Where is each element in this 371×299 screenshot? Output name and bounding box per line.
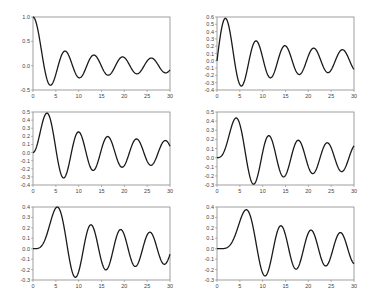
x-tick-label: 20 <box>121 93 127 99</box>
y-tick-label: 0.5 <box>22 109 30 115</box>
x-tick-label: 0 <box>31 188 34 194</box>
y-tick-label: -0.1 <box>205 164 214 170</box>
y-tick-label: -0.3 <box>205 277 214 283</box>
x-tick-label: 5 <box>238 188 241 194</box>
x-tick-label: 20 <box>121 188 127 194</box>
y-tick-label: 0.0 <box>206 58 214 64</box>
x-tick-label: 10 <box>76 188 82 194</box>
plot-frame <box>33 207 170 280</box>
y-tick-label: -0.3 <box>205 182 214 188</box>
y-tick-label: -0.4 <box>205 87 214 93</box>
x-tick-label: 5 <box>238 283 241 289</box>
x-tick-label: 20 <box>305 283 311 289</box>
y-tick-label: 0.0 <box>206 246 214 252</box>
y-tick-label: -0.2 <box>21 267 30 273</box>
y-tick-label: 0.1 <box>206 235 214 241</box>
y-tick-label: -0.1 <box>205 256 214 262</box>
x-tick-label: 25 <box>144 283 150 289</box>
y-tick-label: 0.0 <box>206 155 214 161</box>
x-tick-label: 15 <box>98 188 104 194</box>
x-tick-label: 5 <box>54 283 57 289</box>
chart-panel-j1: 051015202530-0.4-0.3-0.2-0.10.00.10.20.3… <box>205 14 358 99</box>
x-tick-label: 15 <box>282 283 288 289</box>
x-tick-label: 5 <box>54 93 57 99</box>
y-tick-label: 0.3 <box>206 36 214 42</box>
y-tick-label: 0.5 <box>206 109 214 115</box>
x-tick-label: 25 <box>144 93 150 99</box>
y-tick-label: 0.1 <box>22 141 30 147</box>
series-line-j5x <box>217 210 354 276</box>
y-tick-label: -0.1 <box>21 158 30 164</box>
x-tick-label: 30 <box>167 188 173 194</box>
x-tick-label: 20 <box>305 93 311 99</box>
y-tick-label: 0.1 <box>206 146 214 152</box>
x-tick-label: 25 <box>328 188 334 194</box>
x-tick-label: 30 <box>351 283 357 289</box>
x-tick-label: 15 <box>98 93 104 99</box>
y-tick-label: 0.4 <box>22 204 30 210</box>
series-line-j1x <box>217 18 354 86</box>
y-tick-label: 0.2 <box>206 225 214 231</box>
x-tick-label: 0 <box>215 283 218 289</box>
y-tick-label: 0.2 <box>206 136 214 142</box>
y-tick-label: -0.2 <box>205 173 214 179</box>
y-tick-label: -0.2 <box>21 166 30 172</box>
y-tick-label: 1.0 <box>22 14 30 20</box>
x-tick-label: 30 <box>167 93 173 99</box>
y-tick-label: -0.4 <box>21 182 30 188</box>
y-tick-label: 0.2 <box>22 133 30 139</box>
y-tick-label: -0.3 <box>21 277 30 283</box>
y-tick-label: 0.0 <box>22 63 30 69</box>
x-tick-label: 25 <box>328 283 334 289</box>
y-tick-label: -0.3 <box>21 174 30 180</box>
x-tick-label: 5 <box>54 188 57 194</box>
series-line-j2x <box>33 113 170 178</box>
x-tick-label: 10 <box>260 93 266 99</box>
y-tick-label: 0.2 <box>22 225 30 231</box>
y-tick-label: -0.5 <box>21 87 30 93</box>
y-tick-label: -0.2 <box>205 72 214 78</box>
chart-panel-j5: 051015202530-0.3-0.2-0.10.00.10.20.30.4 <box>205 204 358 289</box>
y-tick-label: 0.4 <box>206 118 214 124</box>
x-tick-label: 20 <box>121 283 127 289</box>
y-tick-label: 0.0 <box>22 246 30 252</box>
x-tick-label: 5 <box>238 93 241 99</box>
y-tick-label: 0.3 <box>206 127 214 133</box>
y-tick-label: 0.4 <box>22 117 30 123</box>
chart-panel-j3: 051015202530-0.3-0.2-0.10.00.10.20.30.40… <box>205 109 358 194</box>
y-tick-label: -0.3 <box>205 80 214 86</box>
x-tick-label: 15 <box>282 93 288 99</box>
y-tick-label: 0.2 <box>206 43 214 49</box>
x-tick-label: 20 <box>305 188 311 194</box>
x-tick-label: 15 <box>98 283 104 289</box>
x-tick-label: 10 <box>260 283 266 289</box>
y-tick-label: 0.5 <box>206 21 214 27</box>
x-tick-label: 30 <box>351 93 357 99</box>
x-tick-label: 0 <box>215 93 218 99</box>
y-tick-label: 0.4 <box>206 204 214 210</box>
series-line-j0x <box>33 17 170 85</box>
x-tick-label: 0 <box>215 188 218 194</box>
x-tick-label: 0 <box>31 93 34 99</box>
x-tick-label: 30 <box>351 188 357 194</box>
y-tick-label: -0.1 <box>21 256 30 262</box>
x-tick-label: 10 <box>76 283 82 289</box>
y-tick-label: 0.1 <box>206 51 214 57</box>
chart-panel-j4: 051015202530-0.3-0.2-0.10.00.10.20.30.4 <box>21 204 174 289</box>
x-tick-label: 30 <box>167 283 173 289</box>
x-tick-label: 25 <box>144 188 150 194</box>
series-line-j4x <box>33 207 170 277</box>
y-tick-label: 0.5 <box>22 38 30 44</box>
x-tick-label: 15 <box>282 188 288 194</box>
y-tick-label: 0.4 <box>206 29 214 35</box>
y-tick-label: 0.3 <box>22 214 30 220</box>
y-tick-label: 0.6 <box>206 14 214 20</box>
y-tick-label: 0.1 <box>22 235 30 241</box>
plot-frame <box>217 207 354 280</box>
x-tick-label: 10 <box>76 93 82 99</box>
x-tick-label: 10 <box>260 188 266 194</box>
x-tick-label: 0 <box>31 283 34 289</box>
y-tick-label: -0.1 <box>205 65 214 71</box>
y-tick-label: -0.2 <box>205 267 214 273</box>
y-tick-label: 0.0 <box>22 150 30 156</box>
